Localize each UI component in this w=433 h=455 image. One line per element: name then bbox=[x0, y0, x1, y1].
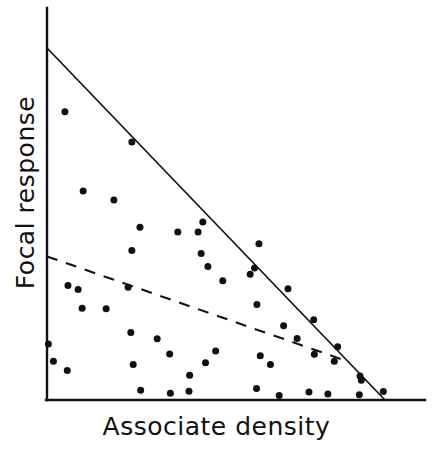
data-point bbox=[136, 224, 143, 231]
data-point bbox=[311, 351, 318, 358]
data-point bbox=[202, 359, 209, 366]
data-point bbox=[130, 361, 137, 368]
data-point bbox=[267, 361, 274, 368]
data-point bbox=[174, 229, 181, 236]
data-point bbox=[166, 350, 173, 357]
data-point bbox=[154, 335, 161, 342]
data-point bbox=[198, 250, 205, 257]
data-point bbox=[280, 322, 287, 329]
x-axis-label: Associate density bbox=[0, 412, 433, 441]
data-point bbox=[185, 388, 192, 395]
regression-dashed-line bbox=[47, 256, 344, 360]
data-points bbox=[45, 108, 387, 399]
data-point bbox=[305, 388, 312, 395]
data-point bbox=[61, 108, 68, 115]
data-point bbox=[127, 329, 134, 336]
data-point bbox=[167, 390, 174, 397]
data-point bbox=[103, 305, 110, 312]
data-point bbox=[255, 240, 262, 247]
data-point bbox=[50, 358, 57, 365]
data-point bbox=[128, 247, 135, 254]
data-point bbox=[212, 348, 219, 355]
y-axis-label-container: Focal response bbox=[0, 0, 46, 404]
data-point bbox=[204, 263, 211, 270]
data-point bbox=[199, 218, 206, 225]
data-point bbox=[128, 138, 135, 145]
data-point bbox=[294, 335, 301, 342]
data-point bbox=[284, 285, 291, 292]
data-point bbox=[331, 358, 338, 365]
data-point bbox=[356, 391, 363, 398]
data-point bbox=[219, 277, 226, 284]
data-point bbox=[137, 387, 144, 394]
data-point bbox=[64, 282, 71, 289]
data-point bbox=[380, 388, 387, 395]
scatter-plot-figure: Focal response Associate density bbox=[0, 0, 433, 455]
data-point bbox=[186, 372, 193, 379]
axes bbox=[46, 8, 425, 400]
data-point bbox=[251, 265, 258, 272]
data-point bbox=[334, 343, 341, 350]
data-point bbox=[253, 301, 260, 308]
data-point bbox=[247, 271, 254, 278]
data-point bbox=[80, 187, 87, 194]
data-point bbox=[195, 229, 202, 236]
data-point bbox=[125, 284, 132, 291]
data-point bbox=[324, 391, 331, 398]
data-point bbox=[310, 316, 317, 323]
data-point bbox=[276, 392, 283, 399]
data-point bbox=[75, 286, 82, 293]
data-point bbox=[110, 197, 117, 204]
plot-canvas bbox=[0, 0, 433, 455]
data-point bbox=[257, 352, 264, 359]
data-point bbox=[79, 305, 86, 312]
y-axis-label: Focal response bbox=[11, 8, 40, 378]
data-point bbox=[253, 385, 260, 392]
data-point bbox=[64, 367, 71, 374]
data-point bbox=[358, 377, 365, 384]
